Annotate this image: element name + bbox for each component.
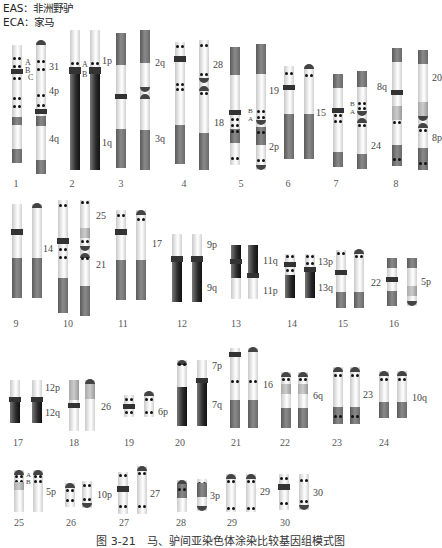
label-17: 17 [152, 238, 162, 249]
pair-number: 7 [326, 178, 346, 189]
label-6p: 6p [158, 406, 168, 417]
label-29: 29 [260, 486, 270, 497]
pair-number: 10 [58, 318, 78, 329]
eca-chromosome-26 [82, 481, 92, 508]
eca-chromosome-10 [80, 200, 90, 316]
label-2p: 2p [269, 141, 279, 152]
pair-number: 1 [6, 178, 26, 189]
eas-chromosome-14 [285, 254, 295, 298]
eca-chromosome-21 [248, 348, 258, 428]
eas-chromosome-7 [333, 74, 343, 167]
marker-b: B [248, 107, 253, 115]
label-18: 18 [214, 117, 224, 128]
eca-chromosome-22 [298, 372, 308, 428]
eca-chromosome-29 [246, 474, 256, 512]
label-8q: 8q [377, 81, 387, 92]
eas-chromosome-4 [175, 42, 185, 164]
eca-chromosome-18 [85, 380, 95, 431]
eca-chromosome-20 [197, 360, 207, 426]
label-19: 19 [269, 85, 279, 96]
eas-chromosome-8 [392, 48, 402, 166]
eas-chromosome-28 [177, 480, 187, 512]
pair-number: 18 [64, 437, 84, 448]
label-20: 20 [432, 72, 442, 83]
eca-chromosome-5 [256, 44, 266, 170]
eca-chromosome-9 [32, 204, 42, 298]
pair-number: 12 [172, 318, 192, 329]
marker-a: A [82, 60, 88, 69]
label-28: 28 [213, 59, 223, 70]
pair-number: 24 [374, 437, 394, 448]
figure-caption: 图 3-21 马、驴间亚染色体涂染比较基因组模式图 [0, 532, 441, 548]
label-3p: 3p [210, 490, 220, 501]
eca-chromosome-3 [140, 30, 150, 170]
eas-chromosome-18 [69, 380, 79, 431]
label-23: 23 [363, 389, 373, 400]
label-5p: 5p [421, 276, 431, 287]
eas-chromosome-22 [281, 372, 291, 428]
label-12q: 12q [45, 407, 60, 418]
label-3q: 3q [155, 133, 165, 144]
eas-chromosome-10 [58, 200, 68, 313]
eas-chromosome-25 [14, 470, 24, 512]
label-13p: 13p [318, 256, 333, 267]
label-22: 22 [371, 277, 381, 288]
eas-chromosome-5 [230, 47, 240, 165]
pair-number: 19 [119, 437, 139, 448]
eca-chromosome-16 [407, 258, 417, 306]
pair-number: 27 [114, 517, 134, 528]
pair-number: 15 [333, 318, 353, 329]
label-15: 15 [316, 107, 326, 118]
eas-chromosome-3 [116, 33, 126, 168]
pair-number: 5 [231, 178, 251, 189]
pair-number: 3 [111, 178, 131, 189]
eca-chromosome-15 [354, 250, 364, 308]
pair-number: 9 [6, 318, 26, 329]
label-11p: 11p [263, 285, 278, 296]
marker-a: A [248, 115, 253, 123]
pair-number: 28 [171, 517, 191, 528]
label-10q: 10q [412, 392, 427, 403]
eca-chromosome-7 [357, 71, 367, 169]
marker-b: B [82, 70, 87, 79]
label-14: 14 [43, 243, 53, 254]
eca-chromosome-8 [418, 50, 428, 170]
pair-number: 30 [275, 517, 295, 528]
label-13q: 13q [318, 282, 333, 293]
pair-number: 8 [386, 178, 406, 189]
eca-chromosome-1 [36, 42, 46, 172]
eas-chromosome-12 [172, 234, 182, 302]
pair-number: 29 [222, 517, 242, 528]
label-27: 27 [150, 488, 160, 499]
label-6q: 6q [313, 390, 323, 401]
eca-chromosome-24 [397, 371, 407, 418]
eas-chromosome-27 [118, 472, 128, 514]
pair-number: 14 [282, 318, 302, 329]
label-31: 31 [49, 61, 59, 72]
label-25: 25 [96, 210, 106, 221]
eas-chromosome-16 [387, 258, 397, 306]
eas-chromosome-30 [279, 474, 289, 510]
marker-a: A [350, 108, 355, 116]
label-4q: 4q [49, 133, 59, 144]
eca-chromosome-4 [199, 40, 209, 170]
eas-chromosome-29 [226, 474, 236, 512]
label-1p: 1p [102, 55, 112, 66]
label-7q: 7q [212, 399, 222, 410]
pair-number: 6 [278, 178, 298, 189]
eca-chromosome-25 [33, 470, 43, 512]
pair-number: 20 [170, 437, 190, 448]
eas-chromosome-15 [336, 250, 346, 308]
eca-chromosome-6 [304, 66, 314, 159]
label-7p: 7p [212, 360, 222, 371]
pair-number: 11 [113, 318, 133, 329]
eas-chromosome-21 [230, 348, 240, 428]
eca-chromosome-2 [90, 30, 100, 170]
label-9q: 9q [207, 282, 217, 293]
legend-eas: EAS：非洲野驴 [3, 2, 73, 15]
label-21: 21 [96, 259, 106, 270]
eas-chromosome-23 [333, 367, 343, 424]
label-26: 26 [101, 401, 111, 412]
label-9p: 9p [207, 239, 217, 250]
eca-chromosome-12 [192, 234, 202, 302]
